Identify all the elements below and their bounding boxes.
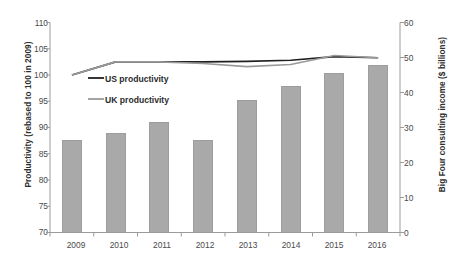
legend-item-uk-productivity: UK productivity xyxy=(105,95,169,105)
line-uk-productivity xyxy=(72,56,378,75)
chart-overlay xyxy=(0,0,450,269)
line-series-group xyxy=(72,56,378,75)
legend-item-us-productivity: US productivity xyxy=(105,74,169,84)
axis-lines xyxy=(46,23,404,237)
legend-line-marks xyxy=(88,78,104,99)
chart-figure: Productivity (rebased to 100 in 2009) Bi… xyxy=(0,0,450,269)
